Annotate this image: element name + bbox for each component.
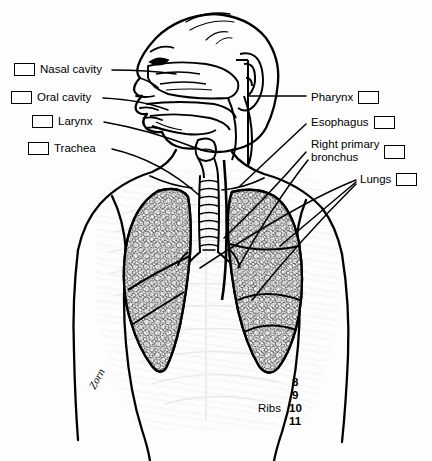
rib-number-11: 11 [289,415,301,427]
label-text-larynx: Larynx [58,115,93,128]
rib-number-9: 9 [292,389,298,401]
label-text-pharynx: Pharynx [311,91,353,104]
label-text-lungs: Lungs [360,173,391,186]
answer-box-oral-cavity[interactable] [11,91,32,104]
label-esophagus[interactable]: Esophagus [311,116,395,129]
label-trachea[interactable]: Trachea [28,142,96,155]
ribs-label: Ribs [258,402,281,414]
answer-box-esophagus[interactable] [374,116,395,129]
answer-box-lungs[interactable] [396,173,417,186]
label-nasal-cavity[interactable]: Nasal cavity [14,63,102,76]
label-text-oral-cavity: Oral cavity [37,91,91,104]
rib-number-10: 10 [289,402,302,414]
answer-box-larynx[interactable] [32,115,53,128]
label-right-primary-bronchus[interactable]: Right primary bronchus [311,138,405,164]
answer-box-trachea[interactable] [28,142,49,155]
label-text-esophagus: Esophagus [311,116,369,129]
answer-box-pharynx[interactable] [358,91,379,104]
label-pharynx[interactable]: Pharynx [311,91,379,104]
label-larynx[interactable]: Larynx [32,115,93,128]
label-lungs[interactable]: Lungs [360,173,417,186]
label-text-trachea: Trachea [54,142,96,155]
answer-box-right-primary-bronchus[interactable] [384,145,405,159]
label-oral-cavity[interactable]: Oral cavity [11,91,91,104]
answer-box-nasal-cavity[interactable] [14,63,35,76]
label-text-right-primary-bronchus: Right primary bronchus [311,138,379,164]
rib-number-8: 8 [292,376,298,388]
respiratory-diagram-page: Zorn Nasal cavity Oral cavity Larynx Tra… [0,0,432,461]
label-text-nasal-cavity: Nasal cavity [40,63,102,76]
